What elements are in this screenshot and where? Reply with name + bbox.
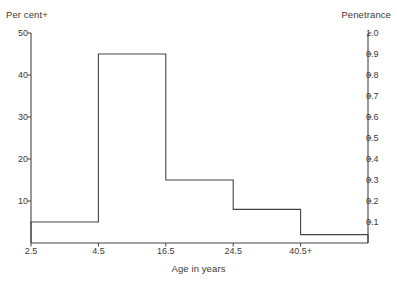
y-axis-left-tick-10: 10 (6, 197, 28, 206)
y-axis-right-tick-0.8: 0.8 (366, 71, 394, 80)
y-axis-left-tick-30: 30 (6, 113, 28, 122)
chart-canvas: Per cent+ Penetrance Age in years 102030… (0, 0, 397, 287)
y-axis-left-tick-40: 40 (6, 71, 28, 80)
step-histogram-plot (0, 0, 397, 287)
y-axis-right-tick-0.6: 0.6 (366, 113, 394, 122)
y-axis-left-tick-20: 20 (6, 155, 28, 164)
y-axis-right-tick-0.5: 0.5 (366, 134, 394, 143)
x-axis-tick-16.5: 16.5 (157, 246, 175, 256)
y-axis-left-tick-50: 50 (6, 29, 28, 38)
x-axis-tick-40.5: 40.5+ (289, 246, 312, 256)
x-axis-tick-4.5: 4.5 (92, 246, 105, 256)
y-axis-right-tick-0.2: 0.2 (366, 197, 394, 206)
x-axis-tick-24.5: 24.5 (224, 246, 242, 256)
y-axis-right-tick-0.1: 0.1 (366, 218, 394, 227)
tick-marks (28, 33, 372, 247)
x-axis-ticklabels: 2.54.516.524.540.5+ (0, 246, 397, 262)
x-axis-tick-2.5: 2.5 (25, 246, 38, 256)
y-axis-right-tick-0.4: 0.4 (366, 155, 394, 164)
y-axis-right-tick-0.3: 0.3 (366, 176, 394, 185)
axis-lines (31, 33, 368, 243)
y-axis-right-ticklabels: 0.10.20.30.40.50.60.70.80.91.0 (366, 0, 394, 287)
y-axis-right-tick-0.9: 0.9 (366, 50, 394, 59)
step-curve (31, 54, 368, 243)
y-axis-right-tick-1.0: 1.0 (366, 29, 394, 38)
y-axis-right-tick-0.7: 0.7 (366, 92, 394, 101)
y-axis-left-ticklabels: 1020304050 (6, 0, 28, 287)
